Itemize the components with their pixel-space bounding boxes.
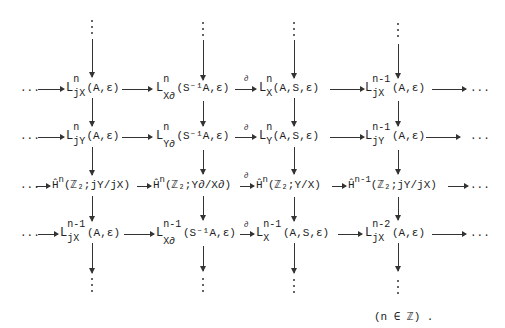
arrow-r2r3-col2 <box>203 150 204 174</box>
row1-node2: LnX∂ (S⁻¹A,ε) <box>156 83 229 94</box>
arrow-r3r4-col2 <box>203 196 204 220</box>
arrow-r1r2-col3 <box>294 98 295 126</box>
row2-boundary-label: ∂ <box>244 123 249 132</box>
row3-trailing-dots: ... <box>470 180 490 191</box>
row4-trailing-dots: ... <box>470 228 490 239</box>
row4-node2: Ln-1X∂ (S⁻¹A,ε) <box>156 228 236 239</box>
row1-boundary-label: ∂ <box>244 74 249 83</box>
row2-node4: Ln-1jY (A,ε) <box>365 131 425 142</box>
row3-boundary-label: ∂ <box>244 171 249 180</box>
arrow-bottom-col2 <box>203 246 204 271</box>
row4-leading-dots: ... <box>20 228 40 239</box>
top-dots-col4 <box>397 23 401 41</box>
row2-arrow-3 <box>330 137 364 138</box>
row2-node1: LnjY (A,ε) <box>66 131 119 142</box>
row4-arrow-0 <box>38 234 58 235</box>
row1-trailing-dots: ... <box>470 83 490 94</box>
arrow-r3r4-col3 <box>294 197 295 221</box>
row4-boundary-label: ∂ <box>244 220 249 229</box>
arrow-bottom-col1 <box>92 243 93 273</box>
row3-arrow-4 <box>448 186 468 187</box>
top-dots-col2 <box>202 22 206 40</box>
arrow-r2r3-col1 <box>92 147 93 175</box>
arrow-r1r2-col2 <box>203 101 204 126</box>
row3-arrow-3 <box>332 186 346 187</box>
arrow-bottom-col4 <box>398 243 399 271</box>
arrow-r1r2-col4 <box>398 101 399 126</box>
row4-arrow-4 <box>432 234 466 235</box>
bottom-dots-col2 <box>202 278 206 296</box>
arrow-r1r2-col1 <box>92 98 93 126</box>
footer-note: (n ∈ ℤ) . <box>374 310 433 323</box>
row3-arrow-1 <box>137 186 151 187</box>
arrow-top-col2 <box>203 40 204 80</box>
row1-arrow-2 <box>235 89 256 90</box>
top-dots-col3 <box>293 22 297 40</box>
arrow-r2r3-col3 <box>294 147 295 174</box>
row4-arrow-3 <box>338 234 362 235</box>
row1-node3: LnX (A,S,ε) <box>259 83 319 94</box>
arrow-top-col4 <box>398 44 399 78</box>
row2-leading-dots: ... <box>20 131 40 142</box>
row3-node1: Ĥn(ℤ₂;jY/jX) <box>52 180 130 192</box>
arrow-top-col3 <box>294 40 295 78</box>
row2-node3: LnY (A,S,ε) <box>259 131 319 142</box>
bottom-dots-col1 <box>91 278 95 296</box>
row2-arrow-0 <box>38 137 64 138</box>
top-dots-col1 <box>91 20 95 38</box>
row4-node4: Ln-2jX (A,ε) <box>365 228 425 239</box>
arrow-r2r3-col4 <box>398 150 399 174</box>
row4-node3: Ln-1X (A,S,ε) <box>256 228 329 239</box>
row4-node1: Ln-1jX (A,ε) <box>60 228 120 239</box>
row3-arrow-0 <box>36 186 50 187</box>
row3-node4: Ĥn-1(ℤ₂;jY/jX) <box>348 180 437 192</box>
row2-node2: LnY∂ (S⁻¹A,ε) <box>156 131 229 142</box>
bottom-dots-col4 <box>397 280 401 298</box>
row1-arrow-4 <box>432 89 466 90</box>
row3-node3: Ĥn(ℤ₂;Y/X) <box>256 180 321 192</box>
row1-arrow-0 <box>38 89 64 90</box>
row1-arrow-1 <box>122 89 152 90</box>
row4-arrow-1 <box>124 234 154 235</box>
row3-node2: Ĥn(ℤ₂;Y∂/X∂) <box>153 180 231 192</box>
arrow-bottom-col3 <box>294 243 295 273</box>
row2-trailing-dots: ... <box>470 131 490 142</box>
row2-arrow-2 <box>235 137 256 138</box>
arrow-top-col1 <box>92 39 93 77</box>
bottom-dots-col3 <box>293 279 297 297</box>
row1-node4: Ln-1jX (A,ε) <box>365 83 425 94</box>
row1-leading-dots: ... <box>20 83 40 94</box>
row1-node1: LnjX (A,ε) <box>66 83 119 94</box>
row2-arrow-1 <box>122 137 152 138</box>
row1-arrow-3 <box>330 89 364 90</box>
arrow-r3r4-col1 <box>92 196 93 221</box>
row4-arrow-2 <box>240 234 254 235</box>
arrow-r3r4-col4 <box>398 197 399 220</box>
row2-arrow-4 <box>426 137 460 138</box>
row3-arrow-2 <box>240 186 254 187</box>
